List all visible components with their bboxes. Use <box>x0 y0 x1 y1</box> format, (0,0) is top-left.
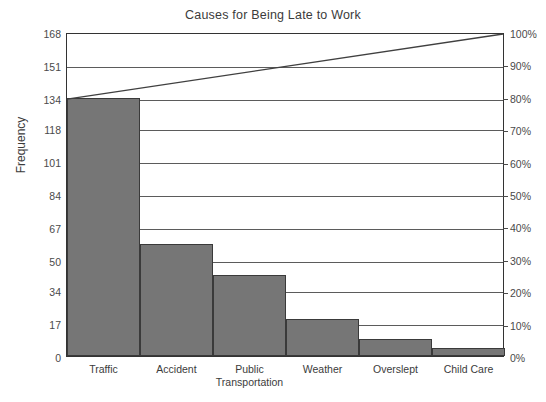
y-tick-label-right: 50% <box>510 190 531 202</box>
y-tick-mark-right <box>503 66 508 67</box>
y-tick-label-left: 34 <box>49 286 61 298</box>
x-category-label: Traffic <box>67 363 140 376</box>
x-category-label: Accident <box>140 363 213 376</box>
y-tick-label-right: 40% <box>510 222 531 234</box>
plot-area: 01734506784101118134151168 0%10%20%30%40… <box>66 33 504 357</box>
y-tick-label-left: 118 <box>44 124 61 136</box>
y-tick-mark-right <box>503 196 508 197</box>
x-category-label: Overslept <box>359 363 432 376</box>
y-tick-mark-right <box>503 164 508 165</box>
y-tick-label-right: 90% <box>510 60 531 72</box>
y-tick-label-right: 80% <box>510 93 531 105</box>
y-tick-label-left: 17 <box>49 319 61 331</box>
y-tick-label-left: 50 <box>49 256 61 268</box>
y-tick-mark-right <box>503 326 508 327</box>
y-tick-label-left: 0 <box>55 352 61 364</box>
x-category-label: Weather <box>286 363 359 376</box>
y-axis-label: Frequency <box>14 80 28 210</box>
plot-inner: 01734506784101118134151168 0%10%20%30%40… <box>67 34 503 356</box>
cumulative-line <box>67 34 503 356</box>
y-tick-label-left: 84 <box>49 190 61 202</box>
y-tick-label-right: 30% <box>510 255 531 267</box>
y-tick-label-left: 168 <box>43 28 61 40</box>
y-tick-mark-right <box>503 99 508 100</box>
y-tick-label-left: 151 <box>43 61 61 73</box>
chart-title: Causes for Being Late to Work <box>0 8 546 22</box>
y-tick-label-left: 67 <box>49 223 61 235</box>
y-tick-mark-right <box>503 261 508 262</box>
x-category-label: Public Transportation <box>213 363 286 388</box>
y-tick-label-right: 60% <box>510 158 531 170</box>
y-tick-label-right: 100% <box>510 28 537 40</box>
y-tick-mark-right <box>503 293 508 294</box>
y-tick-label-right: 70% <box>510 125 531 137</box>
y-tick-mark-right <box>503 131 508 132</box>
y-tick-label-left: 101 <box>43 157 61 169</box>
y-tick-mark-right <box>503 228 508 229</box>
pareto-chart: Causes for Being Late to Work Frequency … <box>0 0 546 402</box>
y-tick-label-right: 10% <box>510 320 531 332</box>
y-tick-label-left: 134 <box>43 94 61 106</box>
y-tick-label-right: 20% <box>510 287 531 299</box>
y-tick-label-right: 0% <box>510 352 525 364</box>
x-category-label: Child Care <box>432 363 505 376</box>
